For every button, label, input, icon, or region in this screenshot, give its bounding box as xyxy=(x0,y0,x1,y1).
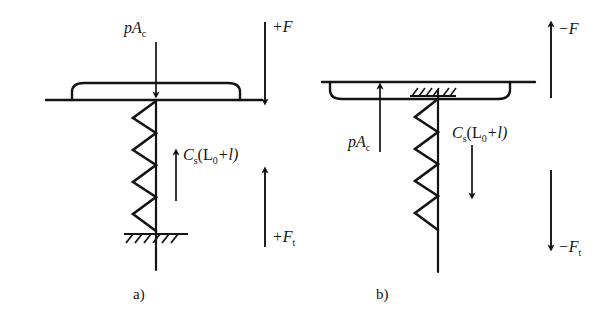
caption-b: b) xyxy=(376,286,389,303)
force-balance-diagram: pAc Cs(L0+l) +F +Ft a) xyxy=(0,0,611,326)
external-force-label-b: −F xyxy=(558,20,579,37)
external-force-label-a: +F xyxy=(272,18,293,35)
caption-a: a) xyxy=(133,286,145,303)
canvas-background xyxy=(0,0,611,326)
